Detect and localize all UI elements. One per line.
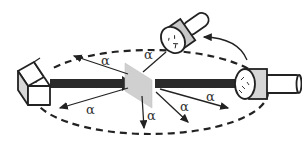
alpha-label: α <box>206 89 215 104</box>
incident-beam <box>48 76 134 91</box>
transmitted-beam <box>155 79 235 88</box>
source-box <box>18 58 50 105</box>
scattering-diagram: α α α α α α <box>0 0 302 145</box>
target-foil <box>125 63 152 108</box>
alpha-label: α <box>144 47 153 62</box>
alpha-label: α <box>101 53 110 68</box>
alpha-label: α <box>86 102 95 117</box>
alpha-label: α <box>180 99 189 114</box>
alpha-label: α <box>147 108 156 123</box>
